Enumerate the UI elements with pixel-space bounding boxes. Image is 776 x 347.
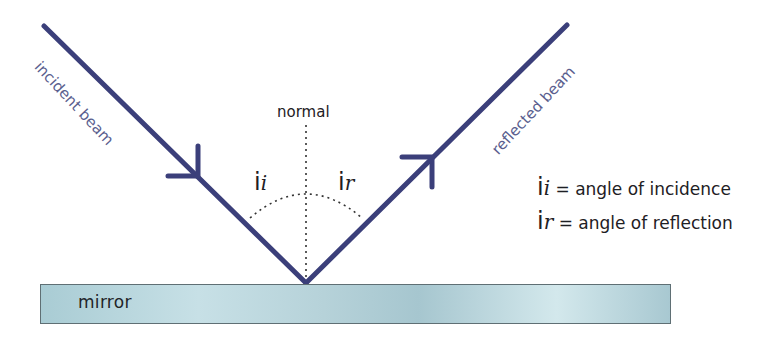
legend-item-incidence: ii = angle of incidence <box>537 170 733 204</box>
reflection-diagram: mirror normal incident beam reflected be… <box>0 0 776 347</box>
mirror-label: mirror <box>78 292 132 312</box>
angle-of-reflection-label: ir <box>338 168 354 196</box>
legend-subscript: r <box>544 210 554 234</box>
angle-of-incidence-label: ii <box>254 168 267 196</box>
legend-symbol: i <box>537 173 544 201</box>
normal-label: normal <box>277 103 330 121</box>
angle-subscript: r <box>345 171 355 195</box>
legend-text: = angle of reflection <box>553 213 733 233</box>
legend-item-reflection: ir = angle of reflection <box>537 204 733 238</box>
legend: ii = angle of incidence ir = angle of re… <box>537 170 733 238</box>
legend-symbol: i <box>537 207 544 235</box>
reflected-beam <box>306 25 567 283</box>
angle-symbol: i <box>254 168 261 196</box>
mirror <box>40 284 671 324</box>
legend-text: = angle of incidence <box>550 179 731 199</box>
angle-symbol: i <box>338 168 345 196</box>
angle-subscript: i <box>261 171 267 195</box>
incident-beam <box>44 26 306 283</box>
